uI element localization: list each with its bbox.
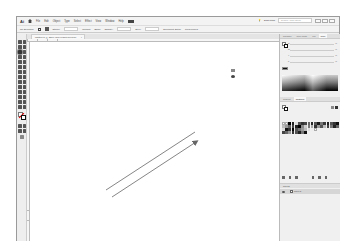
shape-builder-tool-icon[interactable] <box>18 80 22 84</box>
zoom-tool-icon[interactable] <box>23 105 27 109</box>
swatches-footer <box>282 176 338 180</box>
swatches-panel <box>280 102 340 182</box>
opacity-field[interactable] <box>117 27 131 31</box>
stock-search-input[interactable]: Search Adobe Stock <box>278 18 312 23</box>
fill-swatch[interactable] <box>38 28 41 31</box>
direct-selection-tool-icon[interactable] <box>23 40 27 44</box>
tab-gradient[interactable]: Gradient <box>281 97 293 101</box>
slider-k[interactable] <box>290 62 334 63</box>
graph-tool-icon[interactable] <box>23 95 27 99</box>
preferences-button[interactable]: Preferences <box>185 28 198 31</box>
layer-row[interactable]: Layer 1 <box>280 189 340 194</box>
lightbulb-icon[interactable]: 💡 <box>258 19 261 22</box>
brush-basic[interactable]: Basic <box>95 28 101 31</box>
pencil-tool-icon[interactable] <box>23 65 27 69</box>
menu-object[interactable]: Object <box>53 20 61 23</box>
list-view-icon[interactable] <box>331 106 334 109</box>
menu-window[interactable]: Window <box>105 20 114 23</box>
new-color-group-icon[interactable] <box>312 176 315 179</box>
visibility-eye-icon[interactable] <box>282 191 285 193</box>
blend-tool-icon[interactable] <box>23 90 27 94</box>
workspace-grid-icon[interactable] <box>128 20 134 23</box>
close-button[interactable] <box>329 19 335 23</box>
draw-mode-icon[interactable] <box>18 129 22 133</box>
swatch[interactable] <box>336 128 339 131</box>
swatch-fill-stroke-proxy[interactable] <box>282 105 288 111</box>
slider-m[interactable] <box>290 50 334 51</box>
menu-edit[interactable]: Edit <box>44 20 48 23</box>
hand-tool-icon[interactable] <box>18 105 22 109</box>
magic-wand-tool-icon[interactable] <box>18 45 22 49</box>
swatch-stroke-icon[interactable] <box>284 107 288 111</box>
stroke-black-icon[interactable] <box>21 115 26 120</box>
color-mode-icon[interactable] <box>18 124 22 128</box>
opacity-label: Opacity: <box>104 28 113 31</box>
slider-c[interactable] <box>290 44 334 45</box>
perspective-grid-tool-icon[interactable] <box>23 80 27 84</box>
width-tool-icon[interactable] <box>18 75 22 79</box>
uniform-profile[interactable]: Uniform <box>82 28 90 31</box>
properties-icon[interactable] <box>231 69 235 72</box>
mesh-tool-icon[interactable] <box>18 85 22 89</box>
symbol-sprayer-tool-icon[interactable] <box>18 95 22 99</box>
menu-file[interactable]: File <box>36 20 40 23</box>
slider-y-unit: % <box>335 54 337 56</box>
tab-swatches[interactable]: Swatches <box>294 97 307 101</box>
stroke-swatch[interactable] <box>45 27 49 31</box>
swatch-options-icon[interactable] <box>295 176 298 179</box>
arrow-line[interactable] <box>112 142 196 197</box>
home-icon[interactable] <box>28 19 32 23</box>
slice-tool-icon[interactable] <box>23 100 27 104</box>
swatch[interactable] <box>304 131 307 134</box>
layer-thumbnail <box>290 190 293 193</box>
slider-y[interactable] <box>290 56 334 57</box>
menu-select[interactable]: Select <box>74 20 81 23</box>
grid-view-icon[interactable] <box>335 106 338 109</box>
selection-tool-icon[interactable] <box>18 40 22 44</box>
color-spectrum[interactable] <box>282 75 338 91</box>
tab-color-guide[interactable]: Color Guide <box>295 34 310 38</box>
menu-type[interactable]: Type <box>64 20 70 23</box>
fill-stroke-widget[interactable] <box>18 112 26 121</box>
tab-color[interactable]: Color <box>319 34 328 38</box>
tab-navigator[interactable]: Navigator <box>281 34 294 38</box>
free-transform-tool-icon[interactable] <box>23 75 27 79</box>
menu-help[interactable]: Help <box>118 20 123 23</box>
artboard-canvas[interactable] <box>30 42 279 241</box>
none-white-black-swatches[interactable] <box>282 67 288 70</box>
ellipse-tool-icon[interactable] <box>18 60 22 64</box>
swatch-libraries-icon[interactable] <box>282 176 285 179</box>
line-segment-tool-icon[interactable] <box>23 55 27 59</box>
paintbrush-tool-icon[interactable] <box>23 60 27 64</box>
pen-tool-icon[interactable] <box>18 50 22 54</box>
eyedropper-tool-icon[interactable] <box>18 90 22 94</box>
scale-tool-icon[interactable] <box>23 70 27 74</box>
workspace-switcher[interactable]: Essentials <box>264 19 275 22</box>
lasso-tool-icon[interactable] <box>23 45 27 49</box>
shaper-tool-icon[interactable] <box>18 65 22 69</box>
gradient-tool-icon[interactable] <box>23 85 27 89</box>
maximize-button[interactable] <box>322 19 328 23</box>
document-setup-button[interactable]: Document Setup <box>163 28 181 31</box>
menu-effect[interactable]: Effect <box>85 20 92 23</box>
screen-mode-icon[interactable] <box>23 129 27 133</box>
new-swatch-icon[interactable] <box>318 176 321 179</box>
style-field[interactable] <box>145 27 159 31</box>
show-kinds-icon[interactable] <box>289 176 292 179</box>
type-tool-icon[interactable] <box>18 55 22 59</box>
curvature-tool-icon[interactable] <box>23 50 27 54</box>
tab-layers[interactable]: Layers <box>283 185 290 187</box>
artwork <box>30 42 279 241</box>
edit-toolbar-icon[interactable] <box>20 135 24 139</box>
delete-swatch-icon[interactable] <box>325 176 328 179</box>
plain-line[interactable] <box>106 132 195 190</box>
artboard-tool-icon[interactable] <box>18 100 22 104</box>
minimize-button[interactable] <box>315 19 321 23</box>
gradient-mode-icon[interactable] <box>23 124 27 128</box>
tab-info[interactable]: Info <box>310 34 317 38</box>
stroke-weight-field[interactable] <box>64 27 78 31</box>
cc-libraries-icon[interactable] <box>231 75 235 78</box>
rotate-tool-icon[interactable] <box>18 70 22 74</box>
layer-name[interactable]: Layer 1 <box>294 190 301 192</box>
menu-view[interactable]: View <box>96 20 102 23</box>
